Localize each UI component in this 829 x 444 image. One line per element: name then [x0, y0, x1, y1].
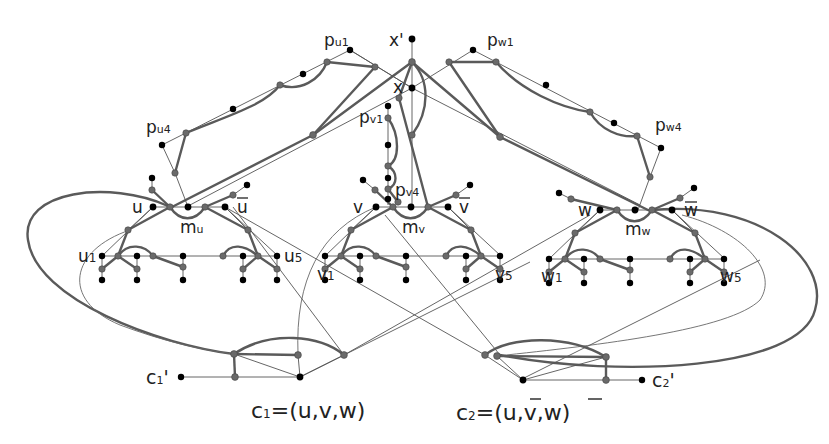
label-pu1: pu1 — [324, 30, 349, 50]
clause-c1-formula: c1=(u,v,w) — [251, 398, 365, 423]
label-pv4: pv4 — [395, 180, 419, 200]
label-pw4: pw4 — [655, 115, 682, 135]
c1-diag — [234, 354, 300, 377]
label-x-prime: x' — [389, 30, 404, 50]
label-v1: v1 — [317, 264, 335, 284]
pw-to-mw — [638, 177, 650, 210]
label-v: v — [353, 197, 363, 217]
label-c1-prime: c1' — [146, 366, 169, 388]
label-w-bar: w — [684, 200, 698, 220]
clause-c2-formula: c2=(u,v,w) — [456, 400, 570, 425]
clause-gadget-c1 — [181, 338, 344, 377]
edge-x-thin-right — [412, 88, 640, 205]
pu4-thin — [162, 145, 175, 173]
label-pu4: pu4 — [146, 117, 171, 137]
label-pw1: pw1 — [487, 30, 514, 50]
v-to-c1 — [298, 207, 376, 354]
pu-top-edge — [327, 62, 375, 67]
label-w: w — [578, 200, 592, 220]
label-x: x — [393, 77, 403, 97]
label-mw: mw — [625, 219, 651, 239]
u-outer-loop — [28, 192, 234, 354]
edge-x-thin-left — [190, 88, 412, 205]
label-w1: w1 — [541, 266, 563, 286]
label-u: u — [132, 197, 143, 217]
label-v-bar: v — [459, 197, 469, 217]
label-v5: v5 — [495, 264, 513, 284]
label-u-bar: u — [237, 197, 248, 217]
reduction-diagram: x' x pu1 pu4 pw1 pw4 pv1 pv4 u u v v w w… — [0, 0, 829, 444]
vertices-pw — [446, 47, 664, 180]
w-outer-loop — [500, 209, 817, 367]
pv-curve-1 — [388, 118, 397, 166]
label-u1: u1 — [78, 246, 96, 266]
ubar-to-c2-long — [225, 207, 485, 355]
label-mv: mv — [402, 217, 426, 237]
pw4-thin — [650, 148, 661, 177]
label-mu: mu — [180, 217, 204, 237]
label-c2-prime: c2' — [652, 369, 675, 391]
pw4-down — [637, 136, 650, 177]
clause-gadget-c2 — [485, 340, 642, 380]
pu4-down — [175, 133, 186, 173]
label-w5: w5 — [720, 266, 742, 286]
